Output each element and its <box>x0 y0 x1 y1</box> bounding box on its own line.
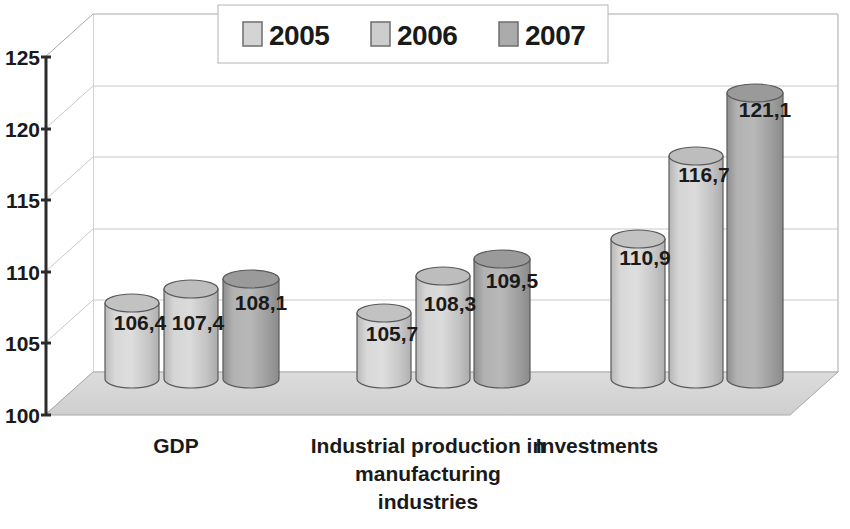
legend-swatch-2006 <box>371 22 390 46</box>
bar-gdp-2007[interactable] <box>223 270 279 388</box>
chart-container: 125 120 115 110 105 100 <box>0 0 850 529</box>
y-tick-115: 115 <box>6 189 40 212</box>
data-label-industrial-2007: 109,5 <box>486 269 539 292</box>
legend-item-2007[interactable]: 2007 <box>499 20 585 51</box>
data-label-gdp-2006: 107,4 <box>172 311 225 334</box>
y-tick-120: 120 <box>5 118 40 141</box>
y-tick-100: 100 <box>5 404 40 427</box>
legend-label-2007: 2007 <box>525 20 585 51</box>
data-label-industrial-2006: 108,3 <box>424 292 477 315</box>
y-tick-105: 105 <box>5 332 40 355</box>
bar-investments-2007[interactable] <box>727 84 783 388</box>
y-axis-tick-labels: 125 120 115 110 105 100 <box>5 46 40 427</box>
data-label-gdp-2005: 106,4 <box>114 311 167 334</box>
legend-item-2005[interactable]: 2005 <box>243 20 329 51</box>
bar-chart-3d: 125 120 115 110 105 100 <box>0 0 850 529</box>
bar-industrial-2005[interactable] <box>357 304 411 388</box>
bar-gdp-2005[interactable] <box>105 294 159 388</box>
data-label-industrial-2005: 105,7 <box>366 322 419 345</box>
category-label-industrial-line1: Industrial production in <box>311 434 546 457</box>
data-label-investments-2007: 121,1 <box>739 98 792 121</box>
plot-side-wall <box>45 14 93 415</box>
y-tick-125: 125 <box>5 46 40 69</box>
category-label-investments: Investments <box>536 434 659 457</box>
category-label-industrial-line2: manufacturing <box>355 462 501 485</box>
legend-label-2006: 2006 <box>397 20 457 51</box>
data-label-investments-2006: 116,7 <box>678 163 729 186</box>
x-axis-category-labels: GDP Industrial production in manufacturi… <box>153 434 658 513</box>
data-label-gdp-2007: 108,1 <box>235 291 288 314</box>
y-tick-110: 110 <box>6 261 40 284</box>
legend-swatch-2005 <box>243 22 262 46</box>
category-label-industrial-line3: industries <box>378 490 478 513</box>
bar-industrial-2006[interactable] <box>416 267 470 388</box>
legend-swatch-2007 <box>499 22 518 46</box>
data-label-investments-2005: 110,9 <box>619 246 670 269</box>
legend-label-2005: 2005 <box>269 20 329 51</box>
category-label-gdp: GDP <box>153 434 199 457</box>
legend-item-2006[interactable]: 2006 <box>371 20 457 51</box>
legend: 2005 2006 2007 <box>218 5 608 63</box>
